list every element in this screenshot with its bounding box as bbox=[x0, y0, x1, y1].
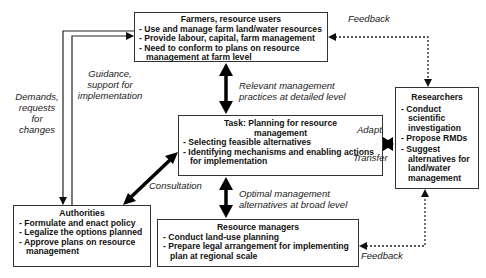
transfer-label: Transfer bbox=[353, 152, 388, 163]
researchers-item: Propose RMDs bbox=[401, 134, 473, 144]
guidance-label: Guidance, support for implementation bbox=[76, 68, 144, 101]
demands-arrow bbox=[63, 31, 134, 204]
consultation-label: Consultation bbox=[149, 180, 202, 191]
resource-managers-item: Prepare legal arrangement for implementi… bbox=[163, 242, 353, 261]
researchers-item: Suggest alternatives for land/water mana… bbox=[401, 145, 473, 183]
optimal-label: Optimal management alternatives at broad… bbox=[239, 188, 364, 210]
resource-managers-box: Resource managers Conduct land-use plann… bbox=[157, 219, 359, 267]
feedback-bottom-label: Feedback bbox=[361, 250, 403, 261]
guidance-arrow bbox=[72, 36, 133, 205]
farmers-item: Need to conform to plans on resource man… bbox=[139, 44, 323, 63]
authorities-item: Approve plans on resource management bbox=[19, 238, 145, 257]
task-item: Identifying mechanisms and enabling acti… bbox=[183, 148, 378, 167]
feedback-top-label: Feedback bbox=[348, 13, 390, 24]
farmers-box: Farmers, resource users Use and manage f… bbox=[134, 12, 328, 62]
demands-label: Demands, requests for changes bbox=[14, 91, 60, 135]
researchers-item: Conduct scientific investigation bbox=[401, 105, 473, 134]
task-box: Task: Planning for resource management S… bbox=[178, 115, 383, 176]
researchers-title: Researchers bbox=[401, 93, 473, 103]
adapt-label: Adapt bbox=[357, 124, 382, 135]
researchers-box: Researchers Conduct scientific investiga… bbox=[395, 87, 479, 189]
authorities-box: Authorities Formulate and enact policy L… bbox=[13, 205, 151, 267]
relevant-label: Relevant management practices at detaile… bbox=[239, 80, 369, 102]
task-title: Task: Planning for resource management bbox=[183, 119, 378, 138]
